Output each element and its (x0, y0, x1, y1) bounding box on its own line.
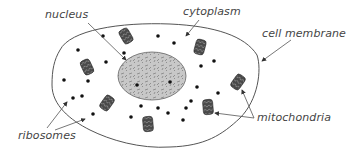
label-nucleus: nucleus (45, 8, 88, 21)
ribosome (212, 59, 216, 63)
ribosome (62, 78, 66, 82)
label-mitochondria: mitochondria (257, 111, 331, 124)
ribosome (139, 104, 143, 108)
label-cytoplasm: cytoplasm (183, 5, 241, 18)
mitochondrion (79, 58, 94, 76)
nucleus-arrow (88, 23, 126, 60)
ribosome (104, 60, 108, 64)
nucleus (118, 52, 186, 100)
ribosomes-arrow-1 (47, 102, 67, 128)
ribosome (122, 51, 126, 55)
ribosome (156, 106, 160, 110)
mitochondrion (230, 73, 247, 91)
ribosome (195, 85, 199, 89)
ribosome (166, 111, 170, 115)
mitochondrion (99, 94, 116, 112)
ribosome (181, 118, 185, 122)
mitochondrion (142, 116, 153, 132)
ribosome (216, 91, 220, 95)
label-cell-membrane: cell membrane (262, 27, 346, 40)
ribosome (86, 79, 90, 83)
cytoplasm-arrow (186, 20, 199, 36)
label-ribosomes: ribosomes (18, 129, 76, 142)
ribosome (135, 83, 139, 87)
mitochondria-arrow-2 (215, 113, 254, 118)
cell-membrane-arrow (262, 40, 291, 61)
mitochondrion (202, 99, 213, 115)
ribosome (156, 34, 160, 38)
ribosome (71, 96, 75, 100)
ribosome (184, 106, 188, 110)
ribosome (129, 115, 133, 119)
mitochondrion (193, 38, 207, 55)
mitochondrion (118, 27, 134, 45)
ribosome (168, 80, 172, 84)
ribosome (80, 94, 84, 98)
ribosome (172, 41, 176, 45)
ribosome (91, 112, 95, 116)
ribosome (199, 64, 203, 68)
ribosome (76, 48, 80, 52)
ribosome (189, 99, 193, 103)
